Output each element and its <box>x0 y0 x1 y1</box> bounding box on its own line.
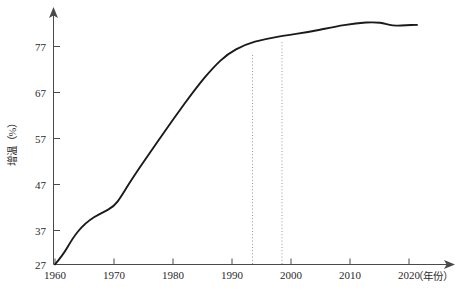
x-axis-title: （年份） <box>413 270 453 282</box>
x-axis-ticks <box>55 259 409 265</box>
x-axis: 1960 1970 1980 1990 2000 2010 2020 （年份） <box>44 259 455 283</box>
x-tick-label-1980: 1980 <box>162 269 185 281</box>
y-tick-label-57: 57 <box>35 133 47 145</box>
x-tick-label-1990: 1990 <box>221 269 244 281</box>
x-tick-label-2000: 2000 <box>280 269 303 281</box>
y-tick-label-37: 37 <box>35 225 47 237</box>
data-series-group <box>55 22 417 264</box>
line-chart-figure: 77 67 57 47 37 27 增温（%） 1 <box>0 0 464 302</box>
marker-lines <box>253 40 283 264</box>
x-tick-label-1960: 1960 <box>44 269 67 281</box>
y-axis-tick-labels: 77 67 57 47 37 27 <box>35 41 47 271</box>
chart-container: 77 67 57 47 37 27 增温（%） 1 <box>0 0 464 302</box>
y-tick-label-67: 67 <box>35 87 47 99</box>
y-tick-label-47: 47 <box>35 179 47 191</box>
y-axis-ticks <box>54 47 61 231</box>
y-axis: 77 67 57 47 37 27 增温（%） <box>6 7 60 271</box>
series-line-zengwen <box>55 22 417 264</box>
y-axis-title: 增温（%） <box>6 118 18 167</box>
x-axis-tick-labels: 1960 1970 1980 1990 2000 2010 2020 <box>44 269 421 281</box>
y-tick-label-77: 77 <box>35 41 47 53</box>
x-tick-label-1970: 1970 <box>103 269 126 281</box>
x-tick-label-2010: 2010 <box>339 269 362 281</box>
